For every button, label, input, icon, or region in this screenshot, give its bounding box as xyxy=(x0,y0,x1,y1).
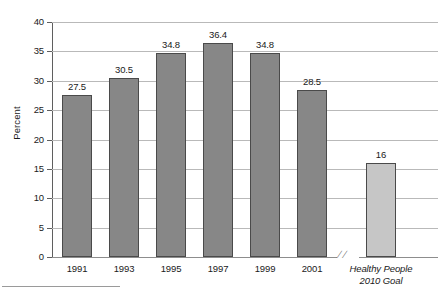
bar-1999 xyxy=(250,53,280,257)
y-axis-tick-label: 15 xyxy=(22,164,44,174)
y-axis-tick-label: 20 xyxy=(22,135,44,145)
y-axis-tick-label: 30 xyxy=(22,76,44,86)
y-axis-tick xyxy=(47,81,52,82)
bar-value-label: 16 xyxy=(356,150,406,160)
y-axis-tick-label: 35 xyxy=(22,46,44,56)
y-axis-tick xyxy=(47,198,52,199)
y-axis-tick xyxy=(47,257,52,258)
y-axis-tick xyxy=(47,22,52,23)
y-axis-tick-label: 5 xyxy=(22,223,44,233)
bar-2001 xyxy=(297,90,327,257)
plot-area: 27.530.534.836.434.828.516 xyxy=(52,22,438,257)
y-axis-tick xyxy=(47,228,52,229)
x-axis-label-line: 2010 Goal xyxy=(328,275,434,287)
bar-value-label: 28.5 xyxy=(287,77,337,87)
bar-1997 xyxy=(203,43,233,257)
bar-1991 xyxy=(62,95,92,257)
y-axis-tick xyxy=(47,169,52,170)
y-axis-labels: Percent 0510152025303540 xyxy=(0,0,44,300)
gridline xyxy=(52,51,438,52)
bar-value-label: 34.8 xyxy=(146,40,196,50)
bar-1993 xyxy=(109,78,139,257)
y-axis-tick-label: 40 xyxy=(22,17,44,27)
y-axis-tick-label: 10 xyxy=(22,193,44,203)
x-axis-label-goal: Healthy People2010 Goal xyxy=(328,263,434,287)
bar-chart: Percent 0510152025303540 27.530.534.836.… xyxy=(0,0,438,300)
y-axis-tick xyxy=(47,140,52,141)
bar-value-label: 27.5 xyxy=(52,82,102,92)
gridline xyxy=(52,22,438,23)
gridline xyxy=(52,257,438,258)
x-axis-label-line: Healthy People xyxy=(328,263,434,275)
bar-1995 xyxy=(156,53,186,257)
footnote-separator xyxy=(2,286,120,287)
y-axis-tick xyxy=(47,51,52,52)
bar-goal xyxy=(366,163,396,257)
bar-value-label: 34.8 xyxy=(240,40,290,50)
y-axis-tick-label: 0 xyxy=(22,252,44,262)
bar-value-label: 30.5 xyxy=(99,65,149,75)
y-axis-title: Percent xyxy=(12,78,22,168)
y-axis-tick xyxy=(47,110,52,111)
y-axis-tick-label: 25 xyxy=(22,105,44,115)
bar-value-label: 36.4 xyxy=(193,30,243,40)
